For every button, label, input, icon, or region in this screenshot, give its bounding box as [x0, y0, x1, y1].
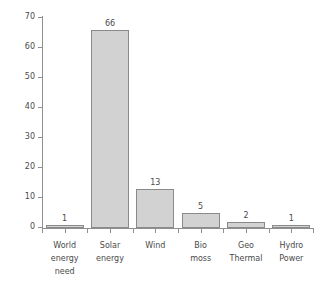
x-axis-category-label-line: Solar — [87, 239, 132, 252]
x-axis-tick-mark-center — [246, 229, 247, 233]
y-axis-tick-label: 60 — [25, 42, 35, 52]
y-axis-tick-label: 20 — [25, 162, 35, 172]
bar[interactable] — [227, 222, 265, 228]
x-axis-category-label-line: Geo — [223, 239, 268, 252]
x-axis-category-label-line: moss — [178, 252, 223, 265]
x-axis-tick-mark — [42, 229, 43, 233]
x-axis-category-label-line: energy — [87, 252, 132, 265]
x-axis-tick-mark — [269, 229, 270, 233]
bar[interactable] — [272, 225, 310, 228]
y-axis-tick-label: 70 — [25, 12, 35, 22]
x-axis-category-label: GeoThermal — [223, 239, 268, 265]
x-axis-category-label-line: Power — [269, 252, 314, 265]
bar[interactable] — [136, 189, 174, 228]
x-axis-category-label-line: Hydro — [269, 239, 314, 252]
x-axis-tick-mark — [178, 229, 179, 233]
y-axis-tick-label: 40 — [25, 102, 35, 112]
bar-value-label: 1 — [289, 214, 294, 223]
y-axis-tick-label: 0 — [30, 222, 35, 232]
x-axis-tick-mark-center — [110, 229, 111, 233]
bar-value-label: 13 — [150, 178, 160, 187]
x-axis-category-label: Worldenergyneed — [42, 239, 87, 278]
bar-group: 1 — [269, 18, 314, 228]
bar-group: 2 — [223, 18, 268, 228]
y-axis-tick-label: 30 — [25, 132, 35, 142]
bar-group: 13 — [133, 18, 178, 228]
x-axis-tick-mark — [313, 229, 314, 233]
x-axis-category-label-line: energy — [42, 252, 87, 265]
bars-layer: 16613521 — [42, 18, 314, 228]
x-axis-tick-mark — [133, 229, 134, 233]
x-axis-category-label-line: Bio — [178, 239, 223, 252]
bar-group: 66 — [87, 18, 132, 228]
x-axis-tick-mark-center — [155, 229, 156, 233]
x-axis-tick-mark — [223, 229, 224, 233]
bar-value-label: 5 — [198, 202, 203, 211]
x-axis-category-label-line: need — [42, 265, 87, 278]
x-axis-ticks — [42, 229, 314, 235]
x-axis-category-label: HydroPower — [269, 239, 314, 265]
bar[interactable] — [182, 213, 220, 228]
bar-value-label: 66 — [105, 19, 115, 28]
x-axis-category-label: Wind — [133, 239, 178, 252]
bar-group: 5 — [178, 18, 223, 228]
bar-chart: 010203040506070 16613521 Worldenergyneed… — [0, 0, 331, 286]
x-axis-tick-mark-center — [65, 229, 66, 233]
x-axis-tick-mark-center — [291, 229, 292, 233]
x-axis-category-label: Biomoss — [178, 239, 223, 265]
bar-value-label: 1 — [62, 214, 67, 223]
y-axis-tick-label: 50 — [25, 72, 35, 82]
bar[interactable] — [91, 30, 129, 228]
bar-group: 1 — [42, 18, 87, 228]
x-axis-tick-mark-center — [201, 229, 202, 233]
bar[interactable] — [46, 225, 84, 228]
x-axis-tick-mark — [87, 229, 88, 233]
x-axis-category-label-line: World — [42, 239, 87, 252]
x-axis-labels: WorldenergyneedSolarenergyWindBiomossGeo… — [42, 239, 314, 285]
x-axis-category-label: Solarenergy — [87, 239, 132, 265]
y-axis-tick-label: 10 — [25, 192, 35, 202]
bar-value-label: 2 — [243, 211, 248, 220]
x-axis-category-label-line: Thermal — [223, 252, 268, 265]
x-axis-category-label-line: Wind — [133, 239, 178, 252]
